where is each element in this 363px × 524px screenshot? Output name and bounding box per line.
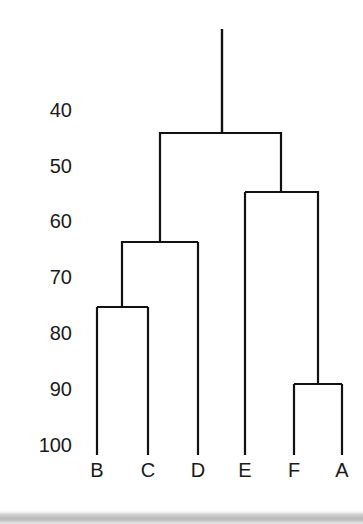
leaf-label-b: B xyxy=(90,459,103,481)
y-tick-label-60: 60 xyxy=(50,210,72,232)
y-tick-label-80: 80 xyxy=(50,322,72,344)
merge-link-efa xyxy=(245,192,318,384)
y-tick-label-90: 90 xyxy=(50,378,72,400)
leaf-stems xyxy=(97,192,342,455)
leaf-label-a: A xyxy=(335,459,349,481)
leaf-label-f: F xyxy=(288,459,300,481)
y-tick-label-70: 70 xyxy=(50,266,72,288)
merge-link-bcd xyxy=(122,242,198,307)
leaf-label-c: C xyxy=(141,459,155,481)
leaf-labels: B C D E F A xyxy=(90,459,349,481)
y-tick-label-40: 40 xyxy=(50,99,72,121)
merge-link-root xyxy=(160,133,281,242)
leaf-label-d: D xyxy=(191,459,205,481)
dendrogram-figure: 40 50 60 70 80 90 100 B C D xyxy=(0,0,363,524)
y-axis-tick-labels: 40 50 60 70 80 90 100 xyxy=(39,99,72,456)
merge-links xyxy=(97,133,342,384)
y-tick-label-50: 50 xyxy=(50,155,72,177)
dendrogram-plot: 40 50 60 70 80 90 100 B C D xyxy=(0,0,363,524)
scan-edge-band xyxy=(0,510,363,524)
leaf-label-e: E xyxy=(238,459,251,481)
y-tick-label-100: 100 xyxy=(39,434,72,456)
